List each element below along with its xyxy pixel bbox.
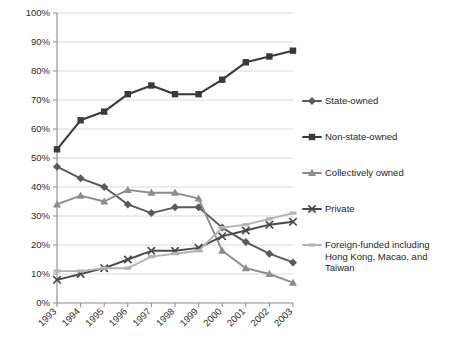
legend-item-collectively-owned[interactable]: Collectively owned <box>303 167 404 178</box>
x-tick-label: 1998 <box>154 306 177 329</box>
series-foreign-funded-including-hong-kong-macao-and-taiwan <box>54 212 297 273</box>
marker-dash <box>148 255 155 258</box>
marker-dash <box>172 252 179 255</box>
legend-label: Hong Kong, Macao, and <box>325 251 427 262</box>
marker-diamond <box>289 258 297 266</box>
x-tick-label: 2000 <box>201 306 224 329</box>
legend-item-private[interactable]: Private <box>303 203 355 214</box>
legend-item-state-owned[interactable]: State-owned <box>303 95 378 106</box>
axes <box>53 13 293 307</box>
marker-square <box>195 91 201 97</box>
legend-label: Taiwan <box>325 262 355 273</box>
legend-label: Foreign-funded including <box>325 239 430 250</box>
marker-square <box>101 108 107 114</box>
marker-dash <box>195 249 202 252</box>
y-tick-label: 100% <box>26 7 51 18</box>
legend-item-foreign-funded-including-hong-kong-macao[interactable]: Foreign-funded includingHong Kong, Macao… <box>303 239 430 273</box>
y-tick-label: 60% <box>31 123 51 134</box>
legend-label: State-owned <box>325 95 378 106</box>
x-tick-label: 1997 <box>130 306 153 329</box>
marker-dash <box>242 223 249 226</box>
chart-legend: State-ownedNon-state-ownedCollectively o… <box>303 95 430 273</box>
marker-diamond <box>308 97 316 105</box>
marker-square <box>54 146 60 152</box>
marker-triangle <box>218 247 226 254</box>
marker-dash <box>266 217 273 220</box>
marker-square <box>77 117 83 123</box>
marker-diamond <box>171 203 179 211</box>
marker-square <box>290 48 296 54</box>
marker-square <box>219 77 225 83</box>
x-tick-label: 1999 <box>177 306 200 329</box>
marker-dash <box>124 267 131 270</box>
x-tick-label: 1993 <box>36 306 59 329</box>
marker-dash <box>101 267 108 270</box>
x-tick-label: 1995 <box>83 306 106 329</box>
marker-square <box>148 82 154 88</box>
y-tick-label: 40% <box>31 181 51 192</box>
y-tick-label: 10% <box>31 268 51 279</box>
gridlines <box>57 13 293 274</box>
series-line <box>57 213 293 271</box>
marker-triangle <box>77 192 85 199</box>
marker-dash <box>219 226 226 229</box>
y-tick-label: 70% <box>31 94 51 105</box>
legend-label: Private <box>325 203 355 214</box>
marker-diamond <box>265 250 273 258</box>
marker-square <box>172 91 178 97</box>
marker-diamond <box>77 174 85 182</box>
data-series <box>53 48 297 286</box>
y-tick-label: 90% <box>31 36 51 47</box>
y-tick-label: 50% <box>31 152 51 163</box>
x-axis-tick-labels: 1993199419951996199719981999200020012002… <box>36 306 295 329</box>
x-tick-label: 2003 <box>272 306 295 329</box>
legend-item-non-state-owned[interactable]: Non-state-owned <box>303 131 397 142</box>
y-tick-label: 30% <box>31 210 51 221</box>
legend-label: Collectively owned <box>325 167 404 178</box>
y-tick-label: 20% <box>31 239 51 250</box>
line-chart: 0%10%20%30%40%50%60%70%80%90%100% 199319… <box>0 0 451 354</box>
chart-canvas: 0%10%20%30%40%50%60%70%80%90%100% 199319… <box>0 0 451 354</box>
x-tick-label: 1994 <box>59 306 82 329</box>
x-tick-label: 1996 <box>106 306 129 329</box>
marker-dash <box>77 270 84 273</box>
marker-diamond <box>53 163 61 171</box>
series-line <box>57 167 293 263</box>
marker-square <box>125 91 131 97</box>
x-tick-label: 2001 <box>224 306 247 329</box>
marker-square <box>266 53 272 59</box>
marker-dash <box>290 212 297 215</box>
marker-dash <box>54 270 61 273</box>
marker-square <box>309 134 315 140</box>
legend-label: Non-state-owned <box>325 131 397 142</box>
y-axis-tick-labels: 0%10%20%30%40%50%60%70%80%90%100% <box>26 7 51 308</box>
marker-square <box>243 59 249 65</box>
marker-dash <box>309 243 316 246</box>
y-tick-label: 80% <box>31 65 51 76</box>
x-tick-label: 2002 <box>248 306 271 329</box>
